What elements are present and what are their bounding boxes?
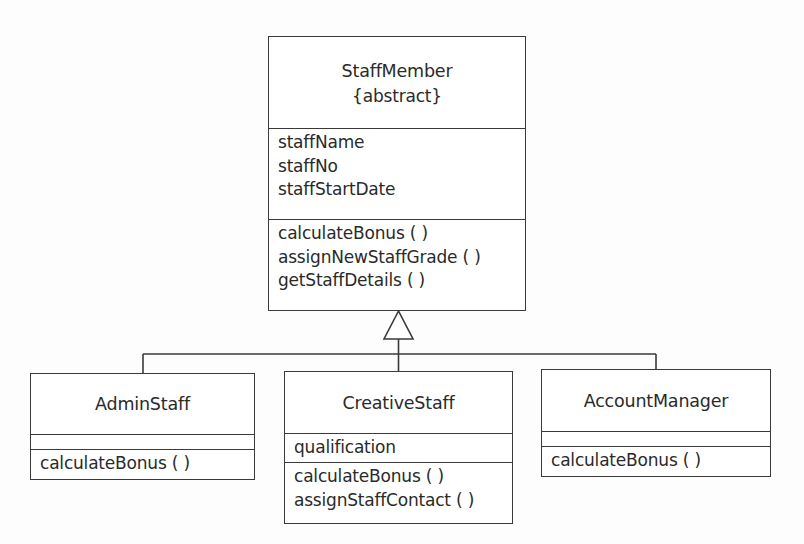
class-adminstaff: AdminStaff calculateBonus ( ) [30,373,255,480]
operations-compartment: calculateBonus ( ) assignStaffContact ( … [285,462,512,523]
class-name: StaffMember [342,58,453,84]
attribute: qualification [294,436,512,460]
attributes-compartment [31,434,254,449]
operation: assignStaffContact ( ) [294,489,512,513]
class-accountmanager: AccountManager calculateBonus ( ) [541,369,771,477]
attribute: staffStartDate [278,178,525,202]
operation: assignNewStaffGrade ( ) [278,246,525,270]
class-name-compartment: AccountManager [542,370,770,431]
attributes-compartment: staffName staffNo staffStartDate [269,128,525,219]
operation: calculateBonus ( ) [551,449,770,473]
diagram-canvas: StaffMember {abstract} staffName staffNo… [0,0,804,544]
operations-compartment: calculateBonus ( ) [31,449,254,479]
generalization-triangle-icon [384,311,413,339]
class-stereotype: {abstract} [352,84,442,108]
class-name-compartment: CreativeStaff [285,372,512,433]
class-name: AccountManager [584,388,729,414]
class-name-compartment: AdminStaff [31,374,254,434]
attribute: staffNo [278,155,525,179]
attributes-compartment [542,431,770,446]
attribute: staffName [278,131,525,155]
class-name: AdminStaff [95,391,190,417]
class-staffmember: StaffMember {abstract} staffName staffNo… [268,36,526,311]
class-name-compartment: StaffMember {abstract} [269,37,525,128]
operation: getStaffDetails ( ) [278,269,525,293]
operation: calculateBonus ( ) [40,452,254,476]
operations-compartment: calculateBonus ( ) [542,446,770,476]
class-name: CreativeStaff [343,390,455,416]
attributes-compartment: qualification [285,433,512,462]
operation: calculateBonus ( ) [278,222,525,246]
operation: calculateBonus ( ) [294,465,512,489]
class-creativestaff: CreativeStaff qualification calculateBon… [284,371,513,524]
operations-compartment: calculateBonus ( ) assignNewStaffGrade (… [269,219,525,310]
